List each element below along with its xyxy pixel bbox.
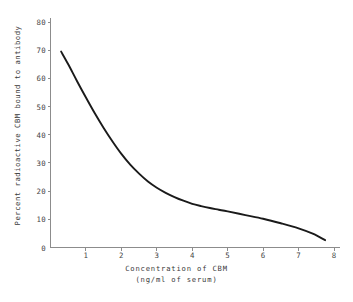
x-tick-label: 7 (296, 251, 301, 260)
data-line-series-0 (61, 52, 325, 241)
x-axis-tick-labels: 12345678 (0, 251, 353, 265)
tick-marks (48, 22, 335, 251)
x-tick-label: 6 (261, 251, 266, 260)
x-tick-label: 5 (225, 251, 230, 260)
x-tick-label: 1 (84, 251, 89, 260)
x-tick-label: 3 (154, 251, 159, 260)
x-tick-label: 8 (332, 251, 337, 260)
axes (51, 18, 341, 248)
data-series (61, 52, 325, 241)
chart-figure: Percent radioactive CBM bound to antibod… (0, 0, 353, 302)
x-tick-label: 2 (119, 251, 124, 260)
x-tick-label: 4 (190, 251, 195, 260)
